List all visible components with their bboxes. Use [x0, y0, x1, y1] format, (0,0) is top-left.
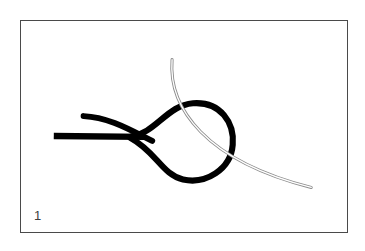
figure-number-label: 1 [34, 209, 41, 222]
figure-illustration [21, 21, 347, 232]
needle-curve [172, 60, 311, 188]
figure-page: 1 [0, 0, 365, 251]
suture-loop [130, 103, 233, 180]
figure-frame: 1 [20, 20, 348, 233]
needle-curve-core [172, 60, 311, 188]
